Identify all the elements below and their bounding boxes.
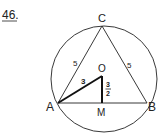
- label-B: B: [148, 100, 156, 114]
- label-OM-numerator: 3: [106, 81, 110, 88]
- label-C: C: [98, 12, 106, 24]
- label-M: M: [97, 107, 105, 118]
- problem-number: 46.: [2, 8, 19, 22]
- side-AC: [58, 26, 102, 103]
- label-OM-denominator: 2: [106, 90, 110, 97]
- label-AC-length: 5: [73, 59, 78, 68]
- label-O: O: [98, 63, 106, 74]
- label-A: A: [46, 100, 54, 114]
- segment-AO: [58, 76, 102, 103]
- label-AO-length: 3: [81, 77, 86, 86]
- label-BC-length: 5: [127, 61, 132, 70]
- geometry-diagram: 46. C A B O M 5 5 3 3 2: [0, 0, 168, 135]
